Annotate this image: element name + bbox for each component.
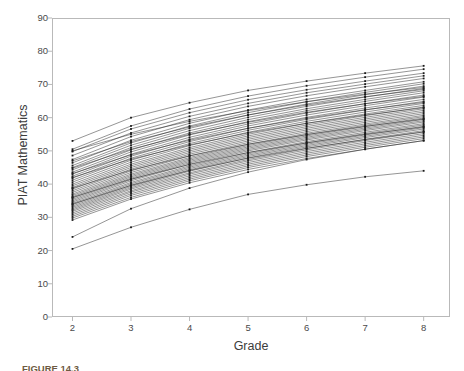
y-tick-label: 10 xyxy=(22,279,48,289)
x-tick-label: 4 xyxy=(178,322,202,334)
x-tick-label: 5 xyxy=(236,322,260,334)
y-tick-label: 20 xyxy=(22,246,48,256)
data-point-markers xyxy=(72,65,425,250)
y-tick-label: 0 xyxy=(22,312,48,322)
y-tick-label: 80 xyxy=(22,46,48,56)
x-axis-title: Grade xyxy=(52,339,450,353)
x-axis-tick-labels: 2345678 xyxy=(0,322,464,338)
chart-canvas xyxy=(0,0,464,371)
x-tick-label: 7 xyxy=(353,322,377,334)
x-tick-label: 3 xyxy=(119,322,143,334)
figure-caption: FIGURE 14.3 xyxy=(22,363,462,371)
y-tick-label: 90 xyxy=(22,13,48,23)
figure-container: 0102030405060708090 PIAT Mathematics 234… xyxy=(0,0,464,371)
x-tick-label: 8 xyxy=(412,322,436,334)
axis-tick-marks xyxy=(48,18,424,321)
y-axis-title: PIAT Mathematics xyxy=(16,70,30,240)
x-tick-label: 6 xyxy=(295,322,319,334)
x-tick-label: 2 xyxy=(60,322,84,334)
